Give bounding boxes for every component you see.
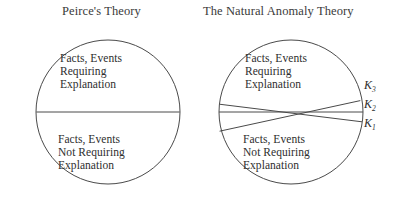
boundary-label-k1: K1: [364, 116, 376, 132]
left-lower-line-1: Facts, Events: [58, 133, 125, 146]
left-upper-line-2: Requiring: [60, 65, 122, 78]
diagram-vector-layer: [0, 0, 400, 204]
left-upper-line-3: Explanation: [60, 78, 122, 91]
boundary-label-k1-subscript: 1: [372, 123, 376, 132]
right-upper-line-3: Explanation: [245, 78, 307, 91]
left-lower-region-text: Facts, Events Not Requiring Explanation: [58, 133, 125, 173]
left-upper-region-text: Facts, Events Requiring Explanation: [60, 52, 122, 92]
left-lower-line-2: Not Requiring: [58, 146, 125, 159]
right-upper-region-text: Facts, Events Requiring Explanation: [245, 52, 307, 92]
boundary-label-k3-subscript: 3: [372, 85, 376, 94]
boundary-label-k3: K3: [364, 78, 376, 94]
boundary-label-k3-symbol: K: [364, 78, 372, 92]
boundary-label-k2-symbol: K: [364, 97, 372, 111]
boundary-label-k2: K2: [364, 97, 376, 113]
figure-canvas: Peirce's Theory The Natural Anomaly Theo…: [0, 0, 400, 204]
right-lower-line-3: Explanation: [243, 159, 310, 172]
right-lower-line-2: Not Requiring: [243, 146, 310, 159]
boundary-label-k2-subscript: 2: [372, 104, 376, 113]
left-lower-line-3: Explanation: [58, 159, 125, 172]
right-upper-line-1: Facts, Events: [245, 52, 307, 65]
right-upper-line-2: Requiring: [245, 65, 307, 78]
right-circle-divider-k1: [220, 101, 361, 132]
boundary-label-k1-symbol: K: [364, 116, 372, 130]
right-lower-line-1: Facts, Events: [243, 133, 310, 146]
right-lower-region-text: Facts, Events Not Requiring Explanation: [243, 133, 310, 173]
left-upper-line-1: Facts, Events: [60, 52, 122, 65]
right-circle-divider-k3: [219, 104, 362, 122]
